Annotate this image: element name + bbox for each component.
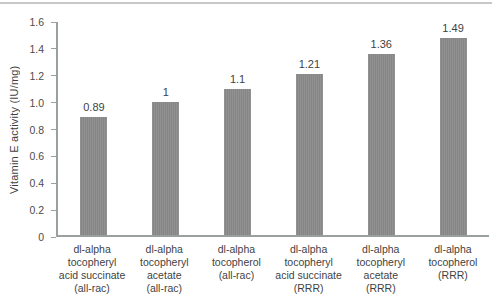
category-label: dl-alpha tocopheryl acid succinate (all-… xyxy=(56,243,128,295)
bar-value-label: 1 xyxy=(163,86,169,98)
y-tick-label: 1.2 xyxy=(29,70,44,82)
bar-value-label: 1.1 xyxy=(230,73,245,85)
bar-chart: Vitamin E activity (IU/mg) 00.20.40.60.8… xyxy=(0,0,499,303)
y-tick-label: 0.4 xyxy=(29,177,44,189)
y-tick-label: 0.2 xyxy=(29,204,44,216)
bar-value-label: 0.89 xyxy=(83,101,104,113)
bar-slot: 1.49 xyxy=(417,22,489,235)
y-tick-label: 0.8 xyxy=(29,124,44,136)
bar-value-label: 1.49 xyxy=(442,22,463,34)
bar xyxy=(296,74,323,235)
bar-value-label: 1.36 xyxy=(371,38,392,50)
bar xyxy=(440,38,467,235)
y-tick-label: 1.0 xyxy=(29,97,44,109)
y-tick-label: 0.6 xyxy=(29,150,44,162)
top-divider-rule xyxy=(0,2,492,4)
bar-slot: 1 xyxy=(130,22,202,235)
bar xyxy=(368,54,395,235)
category-label: dl-alpha tocopheryl acetate (RRR) xyxy=(345,243,417,295)
x-axis-category-labels: dl-alpha tocopheryl acid succinate (all-… xyxy=(56,243,489,295)
bar-slot: 1.21 xyxy=(273,22,345,235)
bar xyxy=(152,102,179,235)
y-axis-ticks: 00.20.40.60.81.01.21.41.6 xyxy=(0,22,56,237)
bar-slot: 0.89 xyxy=(58,22,130,235)
category-label: dl-alpha tocopherol (all-rac) xyxy=(200,243,272,295)
category-label: dl-alpha tocopheryl acid succinate (RRR) xyxy=(273,243,345,295)
bar-slot: 1.1 xyxy=(202,22,274,235)
bar xyxy=(80,117,107,235)
bar-slot: 1.36 xyxy=(345,22,417,235)
category-label: dl-alpha tocopheryl acetate (all-rac) xyxy=(128,243,200,295)
y-tick-label: 1.6 xyxy=(29,16,44,28)
bars: 0.8911.11.211.361.49 xyxy=(58,22,489,235)
y-tick-label: 0 xyxy=(38,231,44,243)
bar xyxy=(224,89,251,235)
plot-area: 0.8911.11.211.361.49 xyxy=(56,22,489,237)
category-label: dl-alpha tocopherol (RRR) xyxy=(417,243,489,295)
bar-value-label: 1.21 xyxy=(299,58,320,70)
y-tick-label: 1.4 xyxy=(29,43,44,55)
